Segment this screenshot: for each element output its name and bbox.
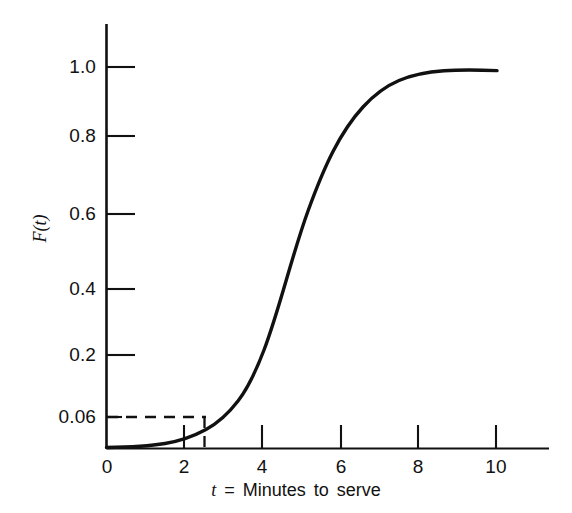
x-tick-label-0: 0 <box>102 456 113 478</box>
x-tick-label-10: 10 <box>485 456 506 478</box>
y-tick-label-1.0: 1.0 <box>22 56 96 78</box>
y-tick-label-0.4: 0.4 <box>22 278 96 300</box>
y-tick-label-0.2: 0.2 <box>22 344 96 366</box>
cdf-curve <box>107 70 498 447</box>
x-tick-label-2: 2 <box>179 456 190 478</box>
x-axis-title-variable: t <box>211 480 216 500</box>
x-axis-title-equals: = <box>224 480 235 500</box>
chart-figure: 1.0 0.8 0.6 0.4 0.2 0.06 0 2 4 6 8 10 F(… <box>0 0 572 513</box>
y-tick-label-0.8: 0.8 <box>22 125 96 147</box>
x-axis-title: t = Minutes to serve <box>211 480 381 501</box>
y-axis-title: F(t) <box>30 199 51 259</box>
y-tick-label-0.06: 0.06 <box>14 406 96 428</box>
x-tick-label-8: 8 <box>413 456 424 478</box>
y-axis-ticks <box>107 67 136 417</box>
x-tick-label-6: 6 <box>336 456 347 478</box>
x-axis-title-text: Minutes to serve <box>243 480 381 500</box>
x-tick-label-4: 4 <box>257 456 268 478</box>
x-axis-ticks <box>184 425 496 449</box>
